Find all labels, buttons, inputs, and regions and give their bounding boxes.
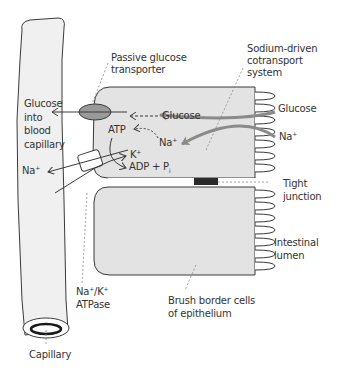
label-glucose-inside-cell: Glucose	[162, 110, 200, 122]
microvilli-lower	[255, 190, 275, 270]
label-na-out: Na+	[22, 165, 40, 177]
lower-cell-body	[94, 187, 255, 275]
label-capillary: Capillary	[29, 349, 71, 361]
label-atpase: Na+/K+ ATPase	[76, 285, 110, 311]
epithelial-cell-lower	[94, 187, 275, 275]
tight-junction	[194, 178, 218, 185]
label-glucose-lumen: Glucose	[278, 103, 316, 115]
label-tight-junction: Tight junction	[283, 177, 322, 203]
label-sodium-driven-cotransport: Sodium-driven cotransport system	[247, 43, 317, 79]
label-na-inside: Na+	[159, 137, 177, 149]
label-passive-glucose-transporter: Passive glucose transporter	[111, 52, 187, 76]
label-atp: ATP	[108, 124, 126, 136]
label-glucose-into-capillary: Glucose into blood capillary	[24, 97, 65, 151]
capillary	[17, 18, 69, 338]
label-intestinal-lumen: Intestinal lumen	[274, 236, 319, 262]
label-brush-border-cells: Brush border cells of epithelium	[168, 294, 255, 320]
intercellular-gap	[108, 178, 255, 184]
leader-atpase	[82, 193, 87, 285]
label-na-lumen: Na+	[279, 131, 297, 143]
label-k-plus: K+	[130, 149, 141, 161]
label-adp-pi: ADP + Pi	[129, 161, 170, 173]
